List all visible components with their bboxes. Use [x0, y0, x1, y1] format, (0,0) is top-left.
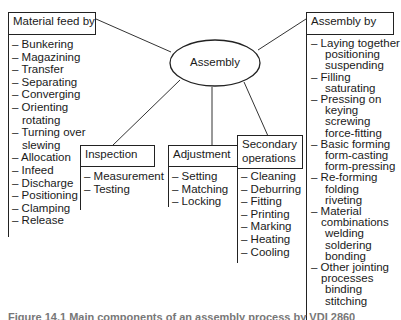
list-item: – Measurement: [84, 170, 164, 183]
material-feed-title-box: Material feed by: [8, 12, 96, 35]
assembly-by-list: – Laying togetherpositioningsuspending– …: [311, 38, 400, 307]
secondary-operations-bracket: [237, 169, 238, 263]
secondary-operations-title-line1: Secondary: [242, 138, 298, 152]
assembly-diagram: Assembly Material feed by – Bunkering– M…: [0, 0, 401, 320]
list-item: – Printing: [241, 208, 301, 221]
list-item: – Turning over: [12, 126, 86, 139]
secondary-operations-title-line2: operations: [242, 152, 298, 166]
adjustment-bracket: [168, 167, 169, 207]
list-item: welding: [311, 228, 400, 239]
assembly-by-bracket: [306, 35, 307, 320]
list-item: – Discharge: [12, 177, 86, 190]
list-item: – Infeed: [12, 164, 86, 177]
secondary-operations-list: – Cleaning – Deburring – Fitting – Print…: [241, 170, 301, 258]
inspection-title: Inspection: [85, 148, 137, 160]
list-item: – Matching: [172, 183, 228, 196]
adjustment-list: – Setting – Matching – Locking: [172, 170, 228, 208]
list-item: – Bunkering: [12, 38, 86, 51]
inspection-bracket: [80, 167, 81, 210]
list-item: – Testing: [84, 183, 164, 196]
material-feed-bracket: [8, 35, 9, 237]
list-item: – Converging: [12, 88, 86, 101]
list-item: suspending: [311, 60, 400, 71]
list-item: – Heating: [241, 233, 301, 246]
list-item: – Clamping: [12, 202, 86, 215]
list-item: stitching: [311, 296, 400, 307]
list-item: – Cleaning: [241, 170, 301, 183]
list-item: – Positioning: [12, 189, 86, 202]
list-item: – Separating: [12, 76, 86, 89]
material-feed-title: Material feed by: [13, 15, 95, 27]
assembly-by-title: Assembly by: [311, 15, 376, 27]
list-item: – Cooling: [241, 246, 301, 259]
adjustment-title-box: Adjustment: [168, 145, 243, 167]
list-item: – Fitting: [241, 195, 301, 208]
list-item: – Allocation: [12, 151, 86, 164]
list-item: – Transfer: [12, 63, 86, 76]
list-item: rotating: [12, 114, 86, 127]
list-item: – Magazining: [12, 51, 86, 64]
center-label: Assembly: [170, 56, 260, 68]
inspection-list: – Measurement – Testing: [84, 170, 164, 195]
list-item: – Release: [12, 214, 86, 227]
secondary-operations-title-box: Secondary operations: [237, 135, 303, 169]
list-item: slewing: [12, 139, 86, 152]
inspection-title-box: Inspection: [80, 145, 155, 167]
list-item: binding: [311, 284, 400, 295]
adjustment-title: Adjustment: [173, 148, 231, 160]
list-item: – Setting: [172, 170, 228, 183]
material-feed-list: – Bunkering– Magazining– Transfer– Separ…: [12, 38, 86, 227]
list-item: – Re-forming: [311, 172, 400, 183]
figure-caption: Figure 14.1 Main components of an assemb…: [8, 311, 355, 320]
assembly-by-title-box: Assembly by: [306, 12, 394, 35]
list-item: – Orienting: [12, 101, 86, 114]
list-item: screwing: [311, 116, 400, 127]
list-item: – Marking: [241, 220, 301, 233]
list-item: – Locking: [172, 195, 228, 208]
list-item: – Deburring: [241, 183, 301, 196]
